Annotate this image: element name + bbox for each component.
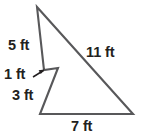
geometry-figure: 5 ft 1 ft 3 ft 7 ft 11 ft	[0, 0, 146, 139]
dimension-label-1ft: 1 ft	[4, 67, 25, 82]
one-ft-leader-arrow	[33, 70, 45, 77]
dimension-label-3ft: 3 ft	[12, 88, 33, 103]
dimension-label-7ft: 7 ft	[71, 119, 92, 134]
polygon-outline	[37, 7, 133, 114]
dimension-label-11ft: 11 ft	[86, 45, 115, 60]
dimension-label-5ft: 5 ft	[8, 38, 29, 53]
